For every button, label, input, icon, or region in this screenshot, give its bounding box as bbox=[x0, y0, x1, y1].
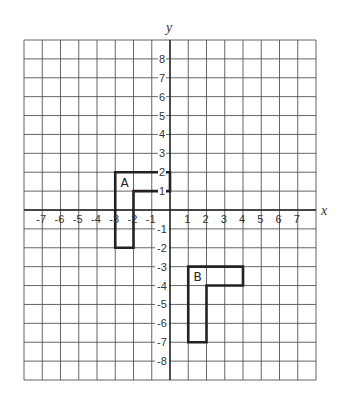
y-tick-label: -6 bbox=[157, 317, 167, 329]
x-tick-label: 1 bbox=[184, 213, 190, 225]
x-tick-label: 5 bbox=[257, 213, 263, 225]
y-tick-label: -1 bbox=[157, 223, 167, 235]
x-tick-label: -4 bbox=[91, 213, 101, 225]
x-tick-label: -1 bbox=[146, 213, 156, 225]
x-tick-label: 2 bbox=[202, 213, 208, 225]
y-tick-label: -2 bbox=[157, 242, 167, 254]
y-tick-label: -3 bbox=[157, 261, 167, 273]
y-axis-title: y bbox=[164, 20, 173, 35]
y-tick-label: -8 bbox=[157, 355, 167, 367]
y-tick-label: 8 bbox=[159, 53, 165, 65]
x-tick-label: -5 bbox=[73, 213, 83, 225]
shape-label-a: A bbox=[120, 176, 129, 190]
x-axis-title: x bbox=[320, 203, 328, 218]
x-tick-label: 3 bbox=[221, 213, 227, 225]
axes bbox=[24, 40, 316, 380]
y-tick-label: -5 bbox=[157, 298, 167, 310]
y-tick-label: 6 bbox=[159, 91, 165, 103]
y-tick-label: 1 bbox=[159, 185, 165, 197]
x-tick-label: 6 bbox=[275, 213, 281, 225]
x-tick-label: -3 bbox=[109, 213, 119, 225]
x-tick-label: -7 bbox=[36, 213, 46, 225]
y-tick-label: -4 bbox=[157, 280, 167, 292]
x-tick-label: -2 bbox=[128, 213, 138, 225]
y-tick-label: 3 bbox=[159, 147, 165, 159]
coordinate-grid: AB -7-6-5-4-3-2-11234567 87654321-1-2-3-… bbox=[0, 0, 343, 395]
x-tick-label: 7 bbox=[294, 213, 300, 225]
y-tick-label: 7 bbox=[159, 72, 165, 84]
x-tick-label: 4 bbox=[239, 213, 245, 225]
shapes: AB bbox=[115, 172, 243, 342]
x-tick-label: -6 bbox=[55, 213, 65, 225]
y-tick-label: -7 bbox=[157, 336, 167, 348]
shape-label-b: B bbox=[193, 270, 201, 284]
y-tick-label: 2 bbox=[159, 166, 165, 178]
y-tick-label: 5 bbox=[159, 110, 165, 122]
y-tick-label: 4 bbox=[159, 128, 165, 140]
